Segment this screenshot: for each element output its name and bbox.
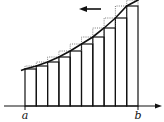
rectangle [93, 37, 104, 106]
rectangle [127, 6, 138, 106]
rectangle [115, 18, 126, 106]
riemann-sum-diagram: a b [0, 0, 164, 122]
label-a: a [22, 109, 29, 122]
rectangle [48, 62, 59, 106]
left-arrow-icon [79, 6, 87, 12]
rectangle [25, 69, 36, 106]
rectangle [36, 66, 47, 106]
rectangle [82, 44, 93, 106]
rectangle [104, 28, 115, 106]
left-endpoint-rectangles [25, 6, 138, 106]
rectangle [70, 51, 81, 106]
rectangle [59, 57, 70, 106]
label-b: b [134, 109, 141, 122]
x-axis-arrowhead-icon [155, 104, 162, 109]
